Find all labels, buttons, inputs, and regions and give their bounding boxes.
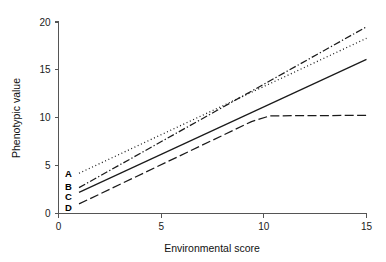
- data-line-c: [79, 59, 366, 192]
- series-label-c: C: [65, 191, 72, 202]
- data-line-a: [79, 38, 366, 173]
- reaction-norm-chart: 05101520051015 ABCD Phenotypic value Env…: [0, 0, 386, 262]
- data-line-d: [79, 115, 366, 204]
- chart-figure: 05101520051015 ABCD Phenotypic value Env…: [0, 0, 386, 262]
- series-labels-group: ABCD: [65, 168, 72, 213]
- y-tick-label: 10: [39, 112, 51, 123]
- series-label-d: D: [65, 202, 72, 213]
- data-lines-group: [79, 27, 366, 204]
- series-label-a: A: [65, 168, 72, 179]
- tick-labels-group: 05101520051015: [39, 17, 372, 232]
- x-axis-title: Environmental score: [164, 242, 260, 254]
- series-label-b: B: [65, 181, 72, 192]
- tick-marks-group: [55, 22, 367, 218]
- x-tick-label: 0: [56, 221, 62, 232]
- y-tick-label: 0: [45, 208, 51, 219]
- y-tick-label: 5: [45, 160, 51, 171]
- y-tick-label: 20: [39, 17, 51, 28]
- x-tick-label: 5: [158, 221, 164, 232]
- y-tick-label: 15: [39, 64, 51, 75]
- axes-group: [59, 22, 367, 214]
- data-line-b: [79, 27, 366, 188]
- x-tick-label: 10: [258, 221, 270, 232]
- y-axis-title: Phenotypic value: [10, 78, 22, 158]
- x-tick-label: 15: [361, 221, 373, 232]
